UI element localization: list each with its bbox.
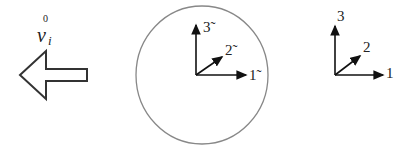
body-axis-2-label: 2̃: [225, 42, 238, 58]
velocity-arrow: [20, 51, 87, 99]
velocity-label-sup: 0: [43, 13, 48, 24]
body-frame: 1̃ 2̃ 3̃: [136, 6, 268, 144]
velocity-label-sub: i: [48, 33, 52, 48]
body-axis-3-label: 3̃: [203, 19, 216, 35]
diagram-canvas: 0 v i 1̃ 2̃ 3̃ 1 2 3: [0, 0, 414, 152]
reference-frame: 1 2 3: [335, 8, 394, 81]
ref-axis-1-label: 1: [386, 65, 394, 81]
body-axis-2-arrow: [196, 57, 222, 75]
velocity-label-main: v: [37, 24, 46, 46]
velocity-label: 0 v i: [37, 13, 52, 48]
ref-axis-2-label: 2: [363, 39, 371, 55]
body-axis-1-label: 1̃: [249, 67, 262, 83]
ref-axis-3-label: 3: [337, 8, 345, 24]
ref-axis-2-arrow: [335, 56, 360, 75]
